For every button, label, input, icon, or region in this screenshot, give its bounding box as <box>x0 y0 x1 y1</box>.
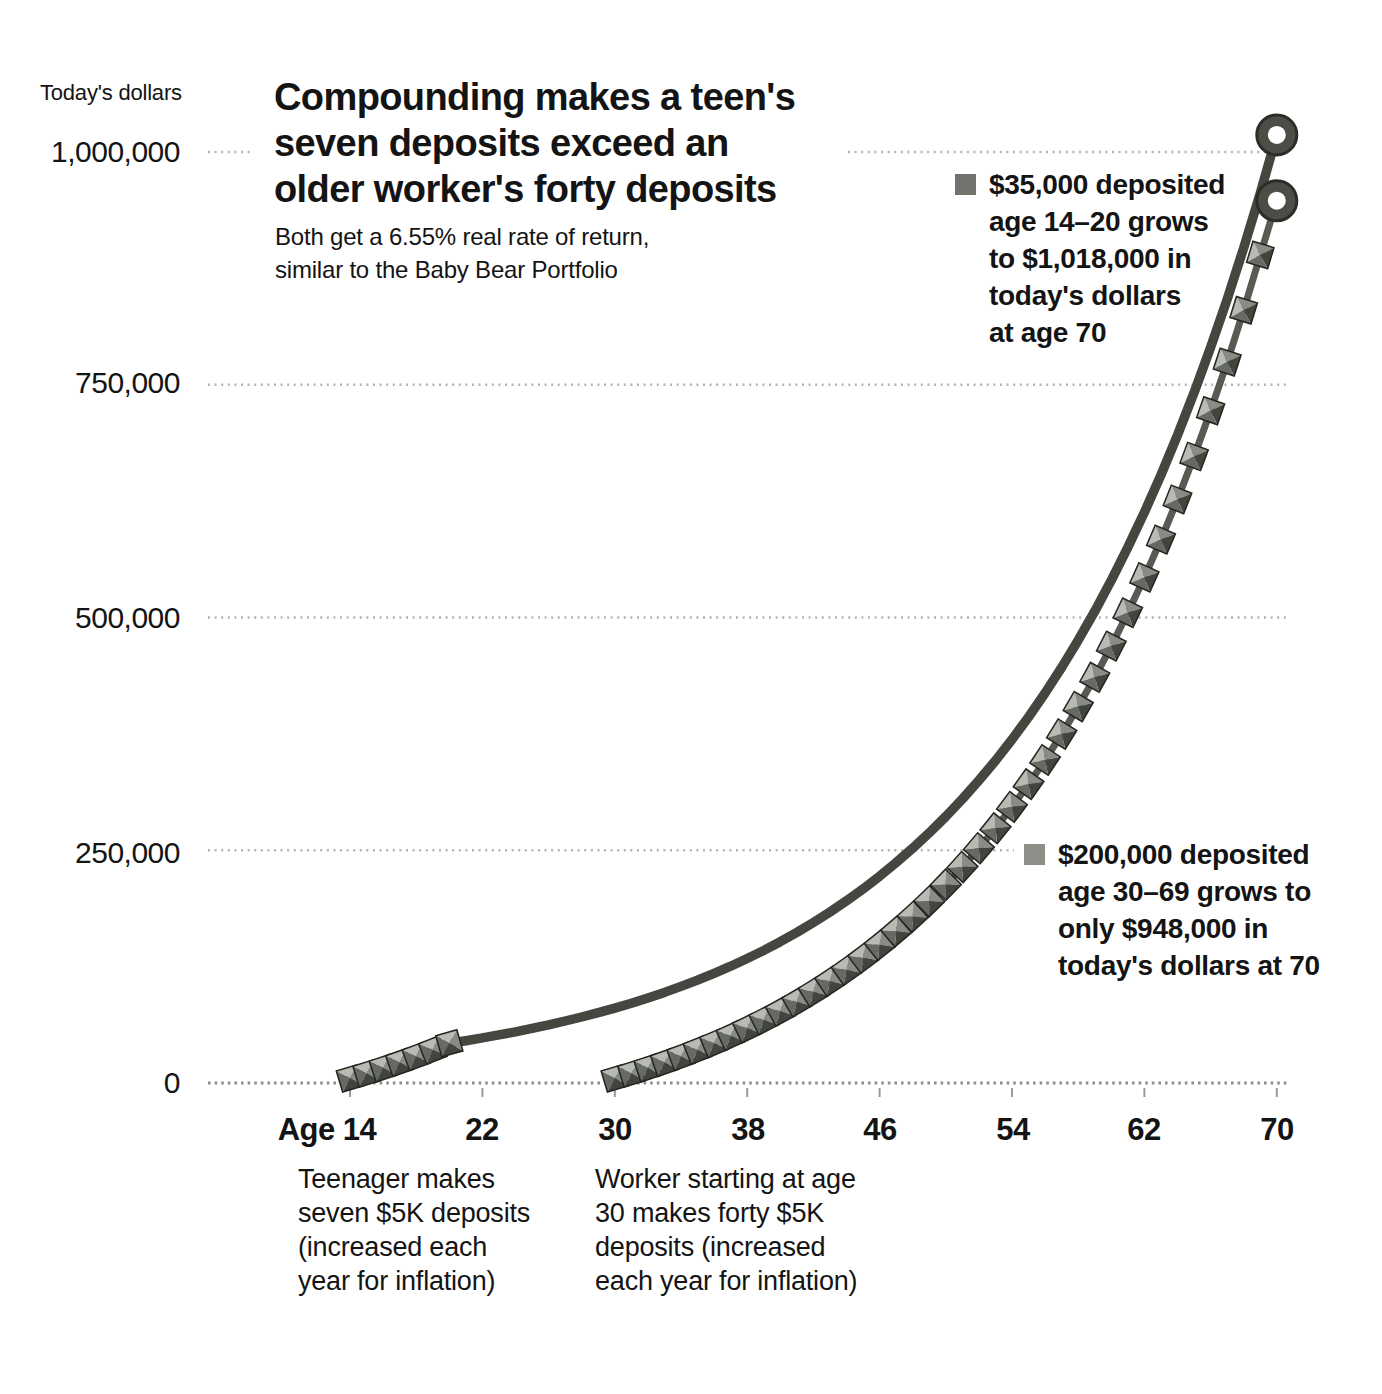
x-tick-label-30: 30 <box>540 1112 690 1148</box>
annotation-worker: $200,000 deposited age 30–69 grows to on… <box>1024 836 1320 984</box>
caption-teen-line-2: seven $5K deposits <box>298 1196 530 1230</box>
x-tick-label-22: 22 <box>407 1112 557 1148</box>
annotation-teen-line-3: to $1,018,000 in <box>989 240 1225 277</box>
legend-square-worker-icon <box>1024 844 1045 865</box>
chart-title-line-1: Compounding makes a teen's <box>274 74 795 120</box>
legend-square-teen-icon <box>955 174 976 195</box>
annotation-teen: $35,000 deposited age 14–20 grows to $1,… <box>955 166 1225 351</box>
chart-title-line-2: seven deposits exceed an <box>274 120 795 166</box>
y-tick-label-750000: 750,000 <box>28 364 180 402</box>
y-tick-label-250000: 250,000 <box>28 834 180 872</box>
y-tick-label-500000: 500,000 <box>28 599 180 637</box>
annotation-teen-text: $35,000 deposited age 14–20 grows to $1,… <box>989 166 1225 351</box>
chart-subtitle: Both get a 6.55% real rate of return, si… <box>275 220 649 286</box>
annotation-worker-line-2: age 30–69 grows to <box>1058 873 1320 910</box>
caption-worker-line-2: 30 makes forty $5K <box>595 1196 857 1230</box>
caption-worker-line-3: deposits (increased <box>595 1230 857 1264</box>
caption-teen: Teenager makes seven $5K deposits (incre… <box>298 1162 530 1298</box>
annotation-teen-line-1: $35,000 deposited <box>989 166 1225 203</box>
x-tick-label-70: 70 <box>1202 1112 1352 1148</box>
chart-canvas: Today's dollars 1,000,000 750,000 500,00… <box>0 0 1382 1394</box>
x-tick-label-54: 54 <box>938 1112 1088 1148</box>
annotation-teen-line-4: today's dollars <box>989 277 1225 314</box>
x-tick-label-age14: Age 14 <box>252 1112 402 1148</box>
caption-worker-line-1: Worker starting at age <box>595 1162 857 1196</box>
annotation-worker-line-4: today's dollars at 70 <box>1058 947 1320 984</box>
caption-teen-line-1: Teenager makes <box>298 1162 530 1196</box>
chart-subtitle-line-1: Both get a 6.55% real rate of return, <box>275 220 649 253</box>
annotation-worker-text: $200,000 deposited age 30–69 grows to on… <box>1058 836 1320 984</box>
x-tick-label-38: 38 <box>673 1112 823 1148</box>
caption-worker-line-4: each year for inflation) <box>595 1264 857 1298</box>
y-axis-title: Today's dollars <box>40 80 182 106</box>
chart-title: Compounding makes a teen's seven deposit… <box>274 74 803 212</box>
caption-teen-line-4: year for inflation) <box>298 1264 530 1298</box>
y-tick-label-1000000: 1,000,000 <box>28 133 180 171</box>
chart-subtitle-line-2: similar to the Baby Bear Portfolio <box>275 253 649 286</box>
annotation-teen-line-2: age 14–20 grows <box>989 203 1225 240</box>
y-tick-label-0: 0 <box>28 1064 180 1102</box>
x-tick-label-46: 46 <box>805 1112 955 1148</box>
annotation-teen-line-5: at age 70 <box>989 314 1225 351</box>
annotation-worker-line-1: $200,000 deposited <box>1058 836 1320 873</box>
annotation-worker-line-3: only $948,000 in <box>1058 910 1320 947</box>
x-tick-label-62: 62 <box>1069 1112 1219 1148</box>
caption-teen-line-3: (increased each <box>298 1230 530 1264</box>
caption-worker: Worker starting at age 30 makes forty $5… <box>595 1162 857 1298</box>
chart-title-line-3: older worker's forty deposits <box>274 166 795 212</box>
